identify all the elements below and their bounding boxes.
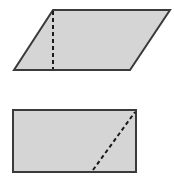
geometry-figure-canvas (0, 0, 174, 194)
rectangle-shape (13, 110, 136, 172)
rectangle-figure (13, 110, 136, 172)
